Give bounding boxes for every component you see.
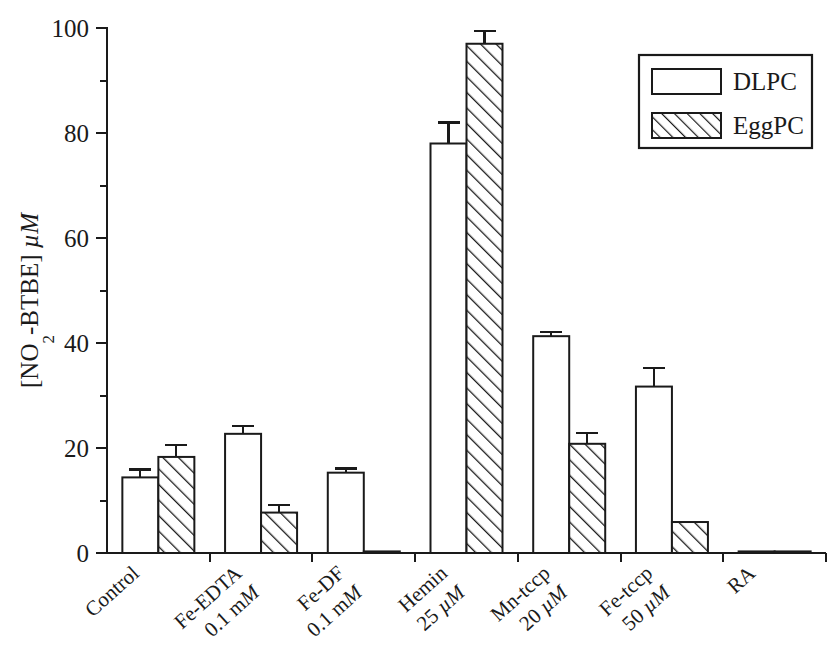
bar-dlpc-3 [431,144,467,554]
y-axis-title-text: [NO2-BTBE] µM [16,212,58,388]
bar-dlpc-4 [533,336,569,553]
bar-chart: 020406080100 ControlFe-EDTA0.1 mMFe-DF0.… [0,0,837,659]
bar-dlpc-2 [328,473,364,553]
bar-eggpc-5 [672,522,708,553]
x-category-label-line1: RA [722,560,760,598]
x-category-label-group: Control [80,561,144,622]
bar-dlpc-6 [739,551,775,553]
error-bar-eggpc-3 [474,31,496,44]
bar-dlpc-1 [225,434,261,553]
y-axis-title: [NO2-BTBE] µM [16,212,58,388]
legend-swatch-dlpc [652,69,721,94]
y-axis-title-group: [NO2-BTBE] µM [16,212,58,388]
legend-swatch-eggpc [652,113,721,138]
x-category-labels: ControlFe-EDTA0.1 mMFe-DF0.1 mMHemin25 µ… [80,560,761,653]
y-tick-label: 40 [64,330,89,357]
error-bar-eggpc-4 [576,433,598,444]
error-bar-eggpc-1 [268,505,290,513]
error-bar-eggpc-0 [165,445,187,457]
x-category-label-group: Fe-DF0.1 mM [285,560,368,642]
y-tick-label: 60 [64,225,89,252]
y-tick-label: 100 [52,15,90,42]
y-tick-labels: 020406080100 [52,15,90,567]
x-category-label-group: Fe-EDTA0.1 mM [169,560,265,653]
bar-dlpc-0 [122,477,158,553]
legend-label-dlpc: DLPC [733,68,797,95]
bar-eggpc-1 [261,513,297,553]
error-bars [129,31,665,513]
chart-figure: 020406080100 ControlFe-EDTA0.1 mMFe-DF0.… [0,0,837,659]
bar-eggpc-6 [775,551,811,553]
x-category-label-group: Mn-tccp20 µM [486,560,573,646]
bar-eggpc-2 [364,551,400,553]
error-bar-dlpc-5 [643,368,665,386]
bar-eggpc-3 [467,44,503,553]
x-category-label-group: RA [722,560,760,598]
error-bar-dlpc-3 [438,123,460,144]
chart-legend: DLPCEggPC [639,55,812,148]
error-bar-dlpc-0 [129,470,151,478]
error-bar-dlpc-1 [232,426,254,434]
bar-dlpc-5 [636,387,672,553]
x-category-label-group: Hemin25 µM [393,560,470,636]
x-category-label-group: Fe-tccp50 µM [594,560,675,640]
y-tick-label: 80 [64,120,89,147]
x-category-label-line1: Control [80,561,144,622]
legend-label-eggpc: EggPC [733,112,804,139]
y-tick-label: 20 [64,435,89,462]
y-tick-label: 0 [77,540,90,567]
bar-eggpc-4 [569,444,605,553]
bar-eggpc-0 [158,457,194,553]
